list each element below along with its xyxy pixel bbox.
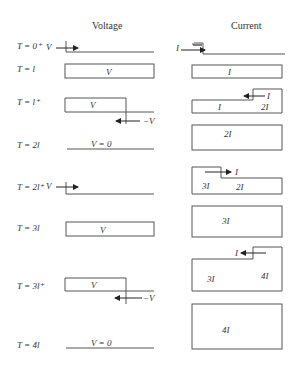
current-value-2a: I [217, 102, 222, 112]
current-row-7 [192, 304, 282, 349]
voltage-source-label-4: V [46, 181, 53, 191]
voltage-row-6 [65, 278, 154, 304]
current-incident-4: I [234, 167, 239, 177]
voltage-value-3: V = 0 [91, 139, 112, 149]
current-row-1 [192, 65, 282, 78]
current-value-6a: 3I [206, 274, 216, 284]
current-reflected-6: I [234, 248, 239, 258]
voltage-value-7: V = 0 [91, 338, 112, 348]
current-value-6b: 4I [261, 271, 270, 281]
current-value-2b: 2I [261, 102, 270, 112]
current-value-1: I [227, 67, 232, 77]
voltage-value-6: V [91, 280, 98, 290]
voltage-source-label-0: V [46, 42, 53, 52]
voltage-value-1: V [106, 67, 113, 77]
voltage-value-5: V [100, 225, 107, 235]
current-value-7: 4I [222, 325, 231, 335]
voltage-row-0 [56, 41, 154, 52]
voltage-row-2 [65, 98, 154, 124]
current-row-5 [192, 206, 282, 237]
wave-diagram: V V V −V V = 0 V V V −V V = 0 I I I I 2I… [0, 0, 299, 367]
current-value-4a: 3I [201, 181, 211, 191]
current-row-0 [181, 43, 285, 54]
current-value-5: 3I [221, 216, 231, 226]
current-row-3 [192, 125, 282, 150]
voltage-reflected-6: −V [143, 293, 156, 303]
voltage-row-4 [56, 182, 154, 194]
voltage-reflected-2: −V [143, 116, 156, 126]
current-value-4b: 2I [236, 182, 245, 192]
voltage-value-2: V [90, 100, 97, 110]
voltage-row-5 [66, 222, 154, 236]
current-source-label-0: I [175, 43, 180, 53]
current-value-3-text: 2I [224, 129, 233, 139]
current-reflected-2: I [266, 91, 271, 101]
